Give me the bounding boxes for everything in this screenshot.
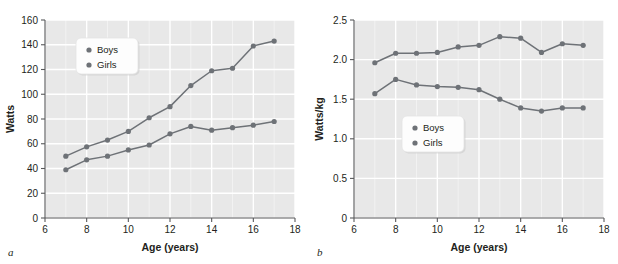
y-tick-label: 20 bbox=[27, 188, 39, 199]
data-point-girls bbox=[63, 167, 68, 172]
legend-marker-girls bbox=[412, 140, 417, 145]
panel-a: 020406080100120140160681012141618Age (ye… bbox=[0, 0, 309, 264]
y-tick-label: 80 bbox=[27, 114, 39, 125]
y-tick-label: 140 bbox=[21, 39, 38, 50]
x-tick-label: 14 bbox=[206, 224, 218, 235]
y-tick-label: 100 bbox=[21, 89, 38, 100]
data-point-boys bbox=[414, 51, 419, 56]
data-point-boys bbox=[105, 137, 110, 142]
data-point-boys bbox=[372, 60, 377, 65]
data-point-girls bbox=[230, 125, 235, 130]
data-point-girls bbox=[147, 142, 152, 147]
y-tick-label: 0 bbox=[32, 213, 38, 224]
x-tick-label: 14 bbox=[515, 224, 527, 235]
data-point-girls bbox=[539, 108, 544, 113]
x-tick-label: 12 bbox=[473, 224, 485, 235]
legend-marker-girls bbox=[86, 62, 91, 67]
y-tick-label: 1.0 bbox=[333, 133, 347, 144]
data-point-boys bbox=[456, 44, 461, 49]
x-tick-label: 18 bbox=[598, 224, 610, 235]
x-tick-label: 8 bbox=[84, 224, 90, 235]
y-tick-label: 2.0 bbox=[333, 54, 347, 65]
data-point-boys bbox=[251, 43, 256, 48]
data-point-boys bbox=[393, 51, 398, 56]
data-point-boys bbox=[84, 144, 89, 149]
legend-label-girls: Girls bbox=[423, 137, 443, 148]
y-tick-label: 1.5 bbox=[333, 94, 347, 105]
data-point-girls bbox=[209, 128, 214, 133]
x-tick-label: 6 bbox=[351, 224, 357, 235]
data-point-boys bbox=[209, 68, 214, 73]
data-point-girls bbox=[84, 157, 89, 162]
data-point-girls bbox=[476, 87, 481, 92]
chart-b: 00.51.01.52.02.5681012141618Age (years)W… bbox=[309, 0, 618, 264]
y-tick-label: 2.5 bbox=[333, 15, 347, 26]
legend: BoysGirls bbox=[76, 38, 140, 76]
legend-marker-boys bbox=[86, 47, 91, 52]
data-point-boys bbox=[581, 43, 586, 48]
data-point-boys bbox=[476, 43, 481, 48]
data-point-boys bbox=[188, 83, 193, 88]
data-point-girls bbox=[393, 77, 398, 82]
y-tick-label: 0.5 bbox=[333, 173, 347, 184]
y-tick-label: 60 bbox=[27, 138, 39, 149]
data-point-girls bbox=[251, 123, 256, 128]
legend-marker-boys bbox=[412, 125, 417, 130]
data-point-boys bbox=[518, 36, 523, 41]
y-tick-label: 0 bbox=[341, 213, 347, 224]
data-point-boys bbox=[539, 50, 544, 55]
data-point-boys bbox=[497, 34, 502, 39]
y-tick-label: 160 bbox=[21, 15, 38, 26]
data-point-girls bbox=[518, 105, 523, 110]
data-point-girls bbox=[272, 119, 277, 124]
data-point-girls bbox=[581, 105, 586, 110]
data-point-boys bbox=[147, 115, 152, 120]
legend-label-girls: Girls bbox=[97, 59, 117, 70]
x-axis-title: Age (years) bbox=[450, 241, 507, 253]
data-point-boys bbox=[435, 50, 440, 55]
x-tick-label: 10 bbox=[432, 224, 444, 235]
panel-letter-b: b bbox=[317, 246, 323, 258]
x-tick-label: 6 bbox=[42, 224, 48, 235]
y-axis-title: Watts bbox=[4, 105, 16, 133]
data-point-boys bbox=[560, 41, 565, 46]
data-point-girls bbox=[372, 91, 377, 96]
y-tick-label: 120 bbox=[21, 64, 38, 75]
legend-label-boys: Boys bbox=[97, 44, 118, 55]
data-point-girls bbox=[560, 105, 565, 110]
legend: BoysGirls bbox=[402, 116, 466, 154]
y-tick-label: 40 bbox=[27, 163, 39, 174]
data-point-girls bbox=[497, 97, 502, 102]
data-point-boys bbox=[272, 38, 277, 43]
y-axis-title: Watts/kg bbox=[313, 97, 325, 140]
legend-label-boys: Boys bbox=[423, 122, 444, 133]
data-point-girls bbox=[456, 85, 461, 90]
data-point-girls bbox=[167, 131, 172, 136]
data-point-girls bbox=[105, 154, 110, 159]
data-point-girls bbox=[414, 82, 419, 87]
data-point-girls bbox=[435, 84, 440, 89]
x-axis-title: Age (years) bbox=[141, 241, 198, 253]
data-point-boys bbox=[167, 104, 172, 109]
data-point-boys bbox=[63, 154, 68, 159]
x-tick-label: 10 bbox=[123, 224, 135, 235]
data-point-boys bbox=[230, 66, 235, 71]
figure-container: 020406080100120140160681012141618Age (ye… bbox=[0, 0, 618, 264]
data-point-boys bbox=[126, 129, 131, 134]
data-point-girls bbox=[188, 124, 193, 129]
x-tick-label: 16 bbox=[557, 224, 569, 235]
chart-a: 020406080100120140160681012141618Age (ye… bbox=[0, 0, 309, 264]
panel-b: 00.51.01.52.02.5681012141618Age (years)W… bbox=[309, 0, 618, 264]
panel-letter-a: a bbox=[8, 246, 14, 258]
x-tick-label: 8 bbox=[393, 224, 399, 235]
x-tick-label: 18 bbox=[289, 224, 301, 235]
x-tick-label: 16 bbox=[248, 224, 260, 235]
x-tick-label: 12 bbox=[164, 224, 176, 235]
data-point-girls bbox=[126, 147, 131, 152]
